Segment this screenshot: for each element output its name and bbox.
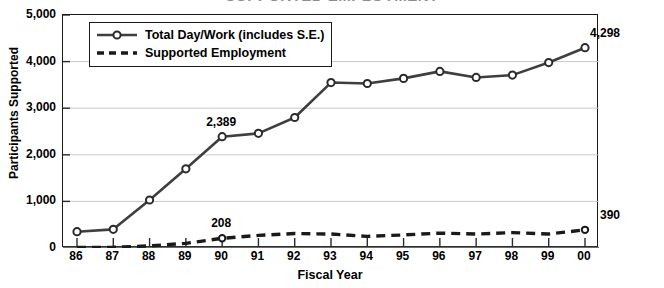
x-tick-label: 97 bbox=[455, 249, 495, 263]
y-tick-label: 3,000 bbox=[10, 101, 56, 113]
data-point-label: 2,389 bbox=[206, 116, 236, 128]
legend-marker-solid-line-icon bbox=[96, 28, 138, 42]
data-point-marker bbox=[582, 227, 588, 233]
legend-item-total-day-work: Total Day/Work (includes S.E.) bbox=[96, 26, 324, 44]
data-point-marker bbox=[110, 226, 117, 233]
data-point-label: 208 bbox=[211, 217, 231, 229]
data-point-marker bbox=[146, 196, 153, 203]
data-point-marker bbox=[364, 80, 371, 87]
x-tick-label: 87 bbox=[92, 249, 132, 263]
data-point-marker bbox=[73, 228, 80, 235]
x-tick-label: 90 bbox=[201, 249, 241, 263]
data-point-marker bbox=[400, 75, 407, 82]
x-tick-label: 98 bbox=[491, 249, 531, 263]
x-tick-label: 93 bbox=[310, 249, 350, 263]
legend-label-supported-employment: Supported Employment bbox=[145, 46, 286, 60]
data-point-marker bbox=[255, 130, 262, 137]
data-point-marker bbox=[436, 68, 443, 75]
y-tick-label: 1,000 bbox=[10, 194, 56, 206]
x-tick-label: 88 bbox=[129, 249, 169, 263]
x-tick-label: 94 bbox=[346, 249, 386, 263]
y-tick-label: 2,000 bbox=[10, 148, 56, 160]
x-tick-label: 95 bbox=[383, 249, 423, 263]
x-axis-tick-labels: 868788899091929394959697989900 bbox=[62, 249, 598, 267]
x-axis-title: Fiscal Year bbox=[62, 268, 598, 282]
data-point-marker bbox=[581, 44, 588, 51]
chart-legend: Total Day/Work (includes S.E.) Supported… bbox=[89, 22, 332, 67]
x-tick-label: 99 bbox=[528, 249, 568, 263]
y-tick-label: 5,000 bbox=[10, 8, 56, 20]
data-point-marker bbox=[182, 165, 189, 172]
y-tick-label: 4,000 bbox=[10, 55, 56, 67]
x-tick-label: 91 bbox=[237, 249, 277, 263]
data-point-label: 390 bbox=[600, 209, 620, 221]
y-tick-label: 0 bbox=[10, 241, 56, 253]
x-tick-label: 86 bbox=[56, 249, 96, 263]
x-tick-label: 89 bbox=[165, 249, 205, 263]
x-tick-label: 96 bbox=[419, 249, 459, 263]
data-point-marker bbox=[509, 72, 516, 79]
data-point-marker bbox=[219, 235, 225, 241]
x-tick-label: 92 bbox=[274, 249, 314, 263]
data-point-label: 4,298 bbox=[590, 27, 620, 39]
data-point-marker bbox=[545, 59, 552, 66]
legend-marker-dashed-line-icon bbox=[96, 46, 138, 60]
data-point-marker bbox=[327, 79, 334, 86]
data-point-marker bbox=[291, 114, 298, 121]
data-point-marker bbox=[473, 74, 480, 81]
chart-title: SUPPORTED EMPLOYMENT bbox=[0, 0, 664, 4]
data-point-marker bbox=[219, 133, 226, 140]
y-axis-tick-labels: 01,0002,0003,0004,0005,000 bbox=[0, 0, 56, 288]
legend-label-total-day-work: Total Day/Work (includes S.E.) bbox=[145, 28, 324, 42]
chart-container: SUPPORTED EMPLOYMENT Participants Suppor… bbox=[0, 0, 664, 288]
x-tick-label: 00 bbox=[564, 249, 604, 263]
legend-item-supported-employment: Supported Employment bbox=[96, 44, 324, 62]
